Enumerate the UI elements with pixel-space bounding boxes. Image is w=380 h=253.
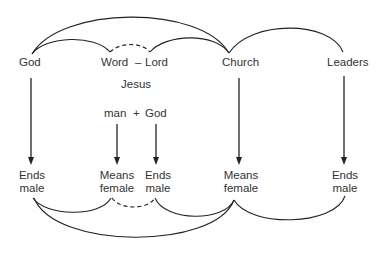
node-means-female-4: Means female [222,169,260,195]
node-label-line2: female [222,182,260,195]
diagram-canvas: God Word – Lord Church Leaders Jesus man… [0,0,380,253]
node-ends-male-5: Ends male [330,169,360,195]
node-label-line1: Means [222,169,260,182]
node-ends-male-1: Ends male [17,169,47,195]
arc-means4-ends5 [234,196,345,220]
node-label-line2: male [330,182,360,195]
arrowhead-icon [341,157,347,165]
arc-god-word [32,39,110,54]
dashed-arc-means2-ends3 [112,198,155,207]
dashed-arc-word-lord [110,45,150,53]
node-lord: Lord [145,56,168,69]
node-means-female-2: Means female [98,169,136,195]
node-man: man [104,107,126,120]
node-label-line2: female [98,182,136,195]
arrowhead-icon [236,157,242,165]
word-lord-dash: – [135,56,141,69]
node-label-line2: male [17,182,47,195]
node-jesus: Jesus [121,78,151,91]
node-god-middle: God [145,107,167,120]
arc-ends3-means4 [155,198,234,216]
arrowhead-icon [28,157,34,165]
node-god: God [19,56,41,69]
node-leaders: Leaders [327,56,369,69]
arc-god-church [32,17,229,54]
node-label-line1: Ends [330,169,360,182]
node-church: Church [222,56,259,69]
node-label-line1: Ends [143,169,173,182]
node-label-line2: male [143,182,173,195]
node-ends-male-3: Ends male [143,169,173,195]
arrowhead-icon [153,157,159,165]
arc-church-leaders [229,28,343,53]
arc-ends1-means4 [34,198,234,237]
arc-ends1-means2 [33,198,111,212]
plus-sign: + [133,107,140,120]
node-label-line1: Means [98,169,136,182]
node-label-line1: Ends [17,169,47,182]
diagram-connectors [0,0,380,253]
node-word: Word [101,56,128,69]
arrowhead-icon [114,157,120,165]
